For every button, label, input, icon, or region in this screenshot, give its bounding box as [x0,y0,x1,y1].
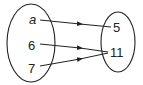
domain-element-7: 7 [28,61,35,76]
domain-element-6: 6 [28,38,35,53]
range-element-5: 5 [113,20,120,35]
mapping-arrow-a-to-5 [40,20,111,27]
mapping-arrow-7-to-11 [40,53,108,66]
mapping-arrow-6-to-11 [40,44,108,52]
range-element-11: 11 [110,45,124,60]
domain-element-a: a [29,12,36,27]
mapping-diagram: a 6 7 5 11 [0,0,143,85]
